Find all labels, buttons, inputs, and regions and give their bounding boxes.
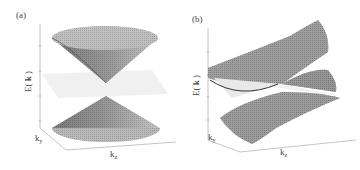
kz-axis-label: kz bbox=[280, 148, 287, 157]
energy-label-suffix: ) bbox=[191, 75, 201, 80]
panel-label-b: (b) bbox=[192, 15, 203, 24]
kz-k: k bbox=[280, 147, 285, 157]
energy-label-suffix: ) bbox=[23, 71, 33, 76]
kz-axis bbox=[66, 142, 176, 150]
ky-sub: y bbox=[213, 137, 216, 143]
panel-b: (b) E( k ) ky kz bbox=[180, 0, 360, 170]
kz-k: k bbox=[110, 149, 115, 159]
energy-label-prefix: E( bbox=[191, 85, 201, 96]
panel-label-a: (a) bbox=[16, 11, 26, 20]
energy-axis-label: E( k ) bbox=[192, 75, 201, 96]
kz-sub: z bbox=[115, 154, 118, 160]
kz-sub: z bbox=[285, 152, 288, 158]
ky-k: k bbox=[208, 132, 213, 142]
energy-axis-label: E( k ) bbox=[24, 71, 33, 92]
ky-sub: y bbox=[40, 138, 43, 144]
ky-k: k bbox=[35, 133, 40, 143]
ky-axis-label: ky bbox=[35, 134, 43, 143]
panel-a: (a) E( k ) ky kz bbox=[0, 0, 180, 170]
kz-axis-label: kz bbox=[110, 150, 117, 159]
energy-label-k: k bbox=[191, 80, 201, 85]
energy-label-prefix: E( bbox=[23, 81, 33, 92]
ky-axis-label: ky bbox=[208, 133, 216, 142]
tilted-cone-plot bbox=[180, 0, 360, 170]
kz-axis bbox=[240, 140, 356, 152]
energy-label-k: k bbox=[23, 76, 33, 81]
